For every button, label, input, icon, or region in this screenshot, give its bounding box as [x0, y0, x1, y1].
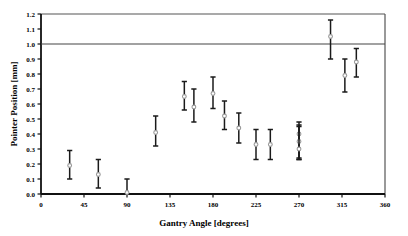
x-tick-label: 135 — [165, 201, 176, 209]
x-tick-label: 225 — [251, 201, 262, 209]
data-marker — [268, 143, 272, 147]
data-marker — [154, 131, 158, 135]
data-marker — [192, 105, 196, 109]
x-tick-label: 45 — [81, 201, 89, 209]
y-tick-label: 0.5 — [26, 116, 35, 124]
y-axis-title: Pointer Position [mm] — [9, 62, 19, 147]
x-tick-label: 90 — [124, 201, 132, 209]
x-tick-label: 270 — [294, 201, 305, 209]
y-tick-label: 0.7 — [26, 86, 35, 94]
x-tick-label: 315 — [337, 201, 348, 209]
y-tick-label: 0.6 — [26, 101, 35, 109]
y-tick-label: 1.0 — [26, 41, 35, 49]
y-tick-label: 0.9 — [26, 56, 35, 64]
x-tick-label: 360 — [380, 201, 391, 209]
y-tick-label: 1.2 — [26, 11, 35, 19]
y-tick-label: 1.1 — [26, 26, 35, 34]
data-marker — [68, 164, 72, 168]
x-tick-label: 0 — [39, 201, 43, 209]
x-tick-label: 180 — [208, 201, 219, 209]
chart-figure: 0.00.10.20.30.40.50.60.70.80.91.01.11.2 … — [0, 0, 408, 236]
y-tick-label: 0.4 — [26, 131, 35, 139]
x-axis-title: Gantry Angle [degrees] — [159, 218, 248, 228]
y-tick-label: 0.2 — [26, 161, 35, 169]
data-marker — [343, 74, 347, 78]
data-marker — [237, 126, 241, 130]
data-marker — [297, 147, 301, 151]
data-marker — [223, 114, 227, 118]
data-marker — [329, 35, 333, 39]
data-marker — [96, 173, 100, 177]
scatter-plot-svg: 0.00.10.20.30.40.50.60.70.80.91.01.11.2 … — [0, 0, 408, 236]
y-tick-label: 0.3 — [26, 146, 35, 154]
data-marker — [211, 92, 215, 96]
y-tick-label: 0.0 — [26, 191, 35, 199]
data-marker — [182, 95, 186, 99]
y-tick-label: 0.1 — [26, 176, 35, 184]
data-marker — [254, 143, 258, 147]
data-marker — [354, 60, 358, 64]
data-marker — [125, 191, 129, 195]
y-tick-label: 0.8 — [26, 71, 35, 79]
